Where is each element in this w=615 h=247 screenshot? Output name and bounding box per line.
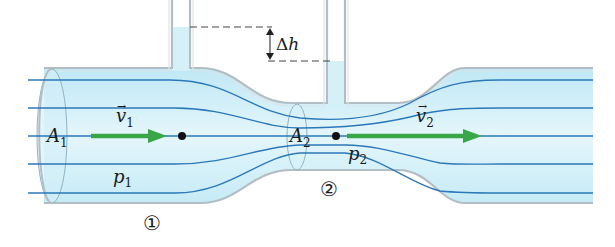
venturi-diagram: Δh A1 → v1 p1 A2 p2 → v2 ① ② xyxy=(0,0,615,247)
right-tube-fluid xyxy=(328,61,344,105)
region-2-marker: ② xyxy=(320,177,338,201)
point-2 xyxy=(332,132,340,140)
point-1 xyxy=(178,132,186,140)
delta-h-indicator xyxy=(190,27,330,61)
region-1-marker: ① xyxy=(143,211,161,235)
label-delta-h: Δh xyxy=(276,34,299,54)
left-tube-fluid xyxy=(173,27,189,71)
